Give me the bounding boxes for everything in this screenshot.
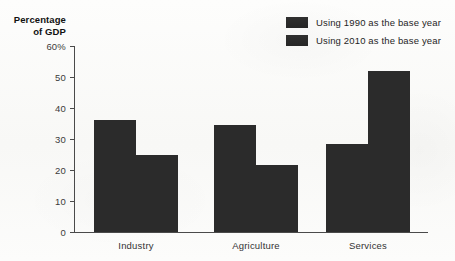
y-tick-mark xyxy=(70,46,74,47)
bar-services-2010[interactable] xyxy=(368,71,410,232)
plot-area: 0102030405060% IndustryAgricultureServic… xyxy=(74,46,404,232)
legend-label-1990: Using 1990 as the base year xyxy=(316,17,441,28)
y-tick-mark xyxy=(70,77,74,78)
bar-industry-2010[interactable] xyxy=(136,155,178,233)
y-axis-title-line-1: Percentage xyxy=(8,14,66,26)
legend-item-1990[interactable]: Using 1990 as the base year xyxy=(286,14,441,30)
y-tick-label: 60% xyxy=(46,41,66,52)
legend-label-2010: Using 2010 as the base year xyxy=(316,35,441,46)
chart-page: Percentage of GDP Using 1990 as the base… xyxy=(0,0,455,261)
bar-agriculture-1990[interactable] xyxy=(214,125,256,232)
y-tick-mark xyxy=(70,170,74,171)
y-axis-title-line-2: of GDP xyxy=(8,26,66,38)
legend-swatch-icon-2010 xyxy=(286,35,308,46)
y-axis-line xyxy=(74,46,75,232)
x-axis-line xyxy=(74,232,428,233)
y-tick-mark xyxy=(70,232,74,233)
y-tick-mark xyxy=(70,201,74,202)
legend-swatch-icon-1990 xyxy=(286,17,308,28)
bar-agriculture-2010[interactable] xyxy=(256,165,298,232)
y-tick-label: 20 xyxy=(55,165,66,176)
y-tick-label: 0 xyxy=(61,227,66,238)
chart-legend: Using 1990 as the base year Using 2010 a… xyxy=(286,14,441,50)
y-tick-label: 30 xyxy=(55,134,66,145)
y-tick-mark xyxy=(70,139,74,140)
y-axis-title: Percentage of GDP xyxy=(8,14,66,37)
x-axis-label-industry: Industry xyxy=(118,240,153,251)
y-tick-label: 50 xyxy=(55,72,66,83)
bar-industry-1990[interactable] xyxy=(94,120,136,232)
x-axis-label-services: Services xyxy=(349,240,387,251)
x-axis-label-agriculture: Agriculture xyxy=(232,240,280,251)
bar-services-1990[interactable] xyxy=(326,144,368,232)
y-tick-label: 10 xyxy=(55,196,66,207)
y-tick-label: 40 xyxy=(55,103,66,114)
y-tick-mark xyxy=(70,108,74,109)
